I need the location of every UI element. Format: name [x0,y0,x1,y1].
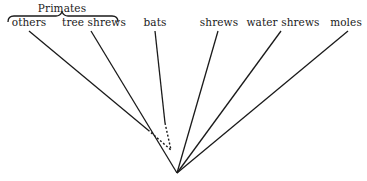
primates-brace [8,12,118,22]
branch-others-dotted [148,130,171,150]
branch-water-shrews [177,31,281,173]
branch-shrews [177,31,218,173]
tree-lines [0,0,367,181]
branch-bats-dotted [165,123,171,150]
branch-moles [177,31,348,173]
branch-others-solid [29,31,148,130]
phylogenetic-diagram: Primates others tree shrews bats shrews … [0,0,367,181]
branch-tree-shrews [91,31,177,173]
branch-bats-solid [155,31,165,123]
